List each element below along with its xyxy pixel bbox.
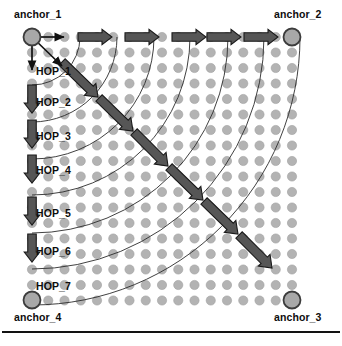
hop-label-3: HOP_3 — [36, 131, 71, 142]
anchor-label-anchor_2: anchor_2 — [274, 9, 322, 20]
anchor-node-anchor_3[interactable] — [284, 292, 301, 309]
anchor-node-anchor_4[interactable] — [24, 292, 41, 309]
anchor-label-anchor_3: anchor_3 — [274, 312, 322, 323]
anchor-label-anchor_1: anchor_1 — [14, 9, 62, 20]
anchor-node-anchor_1[interactable] — [24, 29, 41, 46]
figure-root: anchor_1anchor_2anchor_3anchor_4HOP_1HOP… — [0, 0, 342, 346]
hop-label-5: HOP_5 — [36, 208, 71, 219]
hop-label-7: HOP_7 — [36, 281, 71, 292]
hop-label-2: HOP_2 — [36, 97, 71, 108]
anchor-label-anchor_4: anchor_4 — [14, 312, 62, 323]
anchor-node-anchor_2[interactable] — [284, 29, 301, 46]
diagram-stage: anchor_1anchor_2anchor_3anchor_4HOP_1HOP… — [0, 0, 342, 346]
base-rule — [2, 331, 340, 333]
hop-label-1: HOP_1 — [36, 66, 71, 77]
hop-label-4: HOP_4 — [36, 165, 71, 176]
hop-label-6: HOP_6 — [36, 246, 71, 257]
